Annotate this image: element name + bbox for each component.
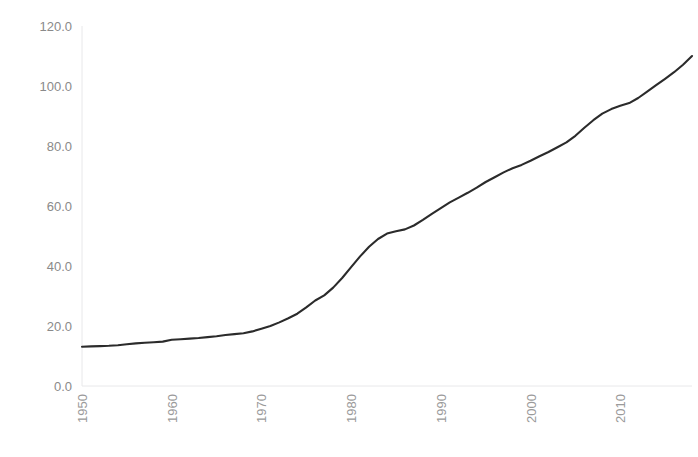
axes-group [82,26,692,386]
series-line-1 [82,56,692,347]
x-tick-label: 1970 [254,394,269,423]
data-series-group [82,56,692,347]
x-tick-label: 1950 [75,394,90,423]
x-tick-label: 1990 [434,394,449,423]
y-tick-label: 20.0 [47,319,72,334]
x-tick-label: 2000 [524,394,539,423]
y-tick-label: 80.0 [47,139,72,154]
y-tick-label: 40.0 [47,259,72,274]
y-axis-tick-labels: 0.020.040.060.080.0100.0120.0 [39,19,72,394]
y-tick-label: 0.0 [54,379,72,394]
x-tick-label: 1960 [165,394,180,423]
chart-container: 0.020.040.060.080.0100.0120.0 1950196019… [0,0,698,457]
y-tick-label: 120.0 [39,19,72,34]
x-tick-label: 1980 [344,394,359,423]
y-tick-label: 60.0 [47,199,72,214]
line-chart-plot: 0.020.040.060.080.0100.0120.0 1950196019… [0,0,698,457]
x-axis-tick-labels: 1950196019701980199020002010 [75,394,628,423]
x-tick-label: 2010 [613,394,628,423]
y-tick-label: 100.0 [39,79,72,94]
